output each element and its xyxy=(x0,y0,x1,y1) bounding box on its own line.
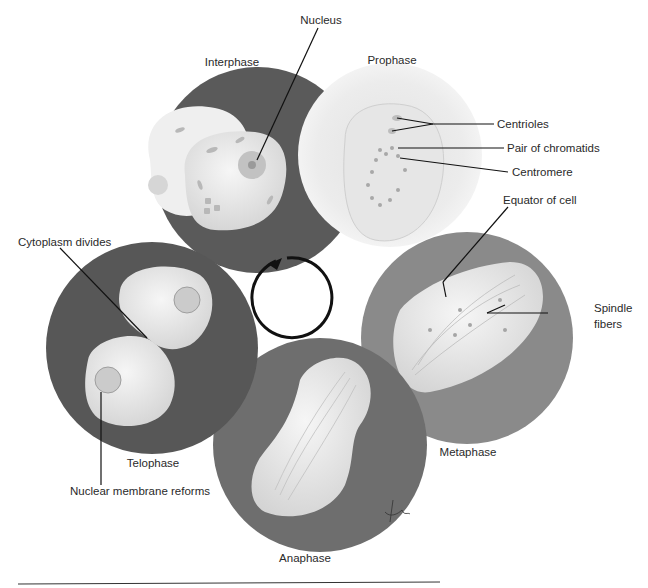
callout-centrioles: Centrioles xyxy=(497,118,549,131)
label-prophase: Prophase xyxy=(367,54,416,67)
telophase-stage xyxy=(46,242,258,454)
telophase-nucleus-upper xyxy=(174,287,200,313)
telophase-nucleus-lower xyxy=(95,367,121,393)
cycle-arrow-icon xyxy=(252,258,332,338)
label-interphase: Interphase xyxy=(205,56,259,69)
callout-nucleus: Nucleus xyxy=(300,14,342,27)
label-anaphase: Anaphase xyxy=(279,552,331,565)
bottom-rule xyxy=(18,582,440,584)
callout-spindle-fibers-line1: Spindle xyxy=(594,302,632,315)
callout-spindle-fibers-line2: fibers xyxy=(594,318,622,331)
mitosis-diagram: Interphase Prophase Metaphase Anaphase T… xyxy=(0,0,648,588)
callout-centromere: Centromere xyxy=(512,166,573,179)
diagram-canvas xyxy=(0,0,648,588)
callout-nuclear-membrane-reforms: Nuclear membrane reforms xyxy=(70,485,210,498)
callout-pair-of-chromatids: Pair of chromatids xyxy=(507,142,600,155)
prophase-stage xyxy=(298,63,482,247)
callout-equator-of-cell: Equator of cell xyxy=(503,194,577,207)
label-telophase: Telophase xyxy=(127,457,179,470)
callout-cytoplasm-divides: Cytoplasm divides xyxy=(18,236,111,249)
label-metaphase: Metaphase xyxy=(440,446,497,459)
